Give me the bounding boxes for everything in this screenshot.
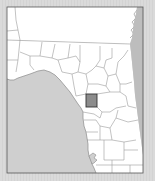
locator-map [0,0,155,181]
neighbor-state-land [7,7,137,44]
highlighted-county [86,94,97,107]
locator-map-container [0,0,155,181]
